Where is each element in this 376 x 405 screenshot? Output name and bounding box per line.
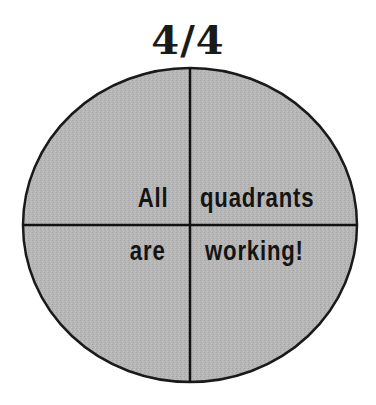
quadrant-circle [0,0,376,405]
quadrant-top-left-text: All [138,183,169,213]
quadrant-top-right-text: quadrants [200,183,314,213]
quadrant-bottom-left-text: are [130,236,166,266]
quadrant-bottom-right-text: working! [205,236,304,266]
